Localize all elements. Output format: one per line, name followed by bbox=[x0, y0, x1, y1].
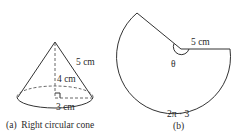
sector-left-radius bbox=[137, 13, 181, 49]
cone-diagram: 5 cm 4 cm 3 cm (a) Right circular cone bbox=[6, 42, 95, 131]
radius-label: 3 cm bbox=[56, 102, 75, 112]
cone-caption: (a) Right circular cone bbox=[6, 120, 94, 131]
right-angle-marker bbox=[55, 93, 60, 98]
cone-left-slant bbox=[18, 42, 55, 97]
slant-height-label: 5 cm bbox=[76, 57, 95, 67]
cone-base-front-arc bbox=[17, 97, 93, 108]
sector-radius-label: 5 cm bbox=[191, 37, 210, 47]
height-label: 4 cm bbox=[57, 74, 76, 84]
cone-right-slant bbox=[55, 42, 92, 97]
figure-canvas: 5 cm 4 cm 3 cm (a) Right circular cone 5… bbox=[0, 0, 245, 136]
arc-length-label: 2π · 3 bbox=[167, 109, 189, 119]
theta-label: θ bbox=[171, 59, 176, 69]
sector-diagram: 5 cm θ 2π · 3 (b) bbox=[117, 13, 231, 132]
sector-caption: (b) bbox=[173, 121, 184, 132]
